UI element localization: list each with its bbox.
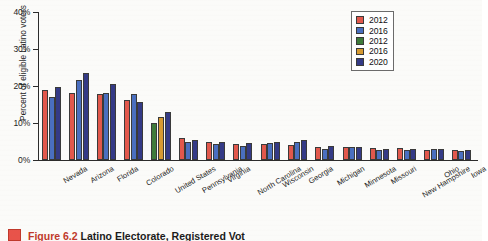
bar	[110, 84, 116, 160]
legend-label: 2020	[369, 57, 388, 67]
x-axis-label: Michigan	[335, 164, 366, 187]
y-axis-tick-label: 40%	[0, 7, 30, 17]
bar	[97, 94, 103, 160]
bar	[288, 145, 294, 160]
legend-item: 2012	[356, 36, 388, 46]
bar-group	[311, 12, 338, 160]
bar	[452, 150, 458, 160]
x-axis-label: Iowa	[470, 164, 488, 180]
bar	[424, 150, 430, 160]
bar	[179, 138, 185, 160]
bar	[192, 140, 198, 160]
bar	[151, 123, 157, 160]
bar-group	[38, 12, 65, 160]
bar	[233, 144, 239, 160]
bar-group	[257, 12, 284, 160]
caption-rest: Latino Electorate, Registered Vot	[78, 230, 245, 241]
bar	[185, 142, 191, 160]
bar	[137, 102, 143, 160]
bar	[131, 94, 137, 160]
legend-label: 2012	[369, 15, 388, 25]
bar	[410, 149, 416, 160]
bar	[246, 143, 252, 160]
bar	[322, 149, 328, 160]
legend-label: 2016	[369, 46, 388, 56]
bar	[103, 93, 109, 160]
x-axis-label: Florida	[116, 164, 141, 184]
bar	[165, 112, 171, 160]
bar	[240, 146, 246, 160]
bar	[83, 73, 89, 160]
legend-swatch	[356, 27, 364, 35]
bar	[76, 80, 82, 160]
bar	[261, 144, 267, 160]
bar	[328, 146, 334, 160]
legend-label: 2012	[369, 36, 388, 46]
bar-group	[147, 12, 174, 160]
bar	[431, 149, 437, 160]
bar	[274, 142, 280, 161]
legend-label: 2016	[369, 26, 388, 36]
y-axis-tick-label: 20%	[0, 81, 30, 91]
bar	[458, 151, 464, 160]
bar-group	[393, 12, 420, 160]
caption-marker-icon	[8, 229, 21, 241]
legend-swatch	[356, 48, 364, 56]
bar	[370, 148, 376, 160]
bar-group	[65, 12, 92, 160]
bar	[465, 150, 471, 160]
bar	[69, 93, 75, 160]
figure-caption: Figure 6.2 Latino Electorate, Registered…	[28, 230, 245, 241]
legend-swatch	[356, 37, 364, 45]
bar	[356, 147, 362, 160]
x-axis-label: Colorado	[144, 164, 175, 188]
x-axis-label: Nevada	[61, 164, 88, 185]
caption-figure-number: Figure 6.2	[28, 230, 78, 241]
bar-group	[420, 12, 447, 160]
bar-group	[229, 12, 256, 160]
bar-group	[93, 12, 120, 160]
bar	[267, 143, 273, 160]
bar	[206, 142, 212, 161]
plot-area	[38, 12, 475, 160]
bar	[404, 150, 410, 160]
x-axis-line	[38, 160, 478, 161]
bar	[315, 147, 321, 160]
bar	[55, 87, 61, 160]
bar	[49, 97, 55, 160]
bar	[438, 149, 444, 160]
x-axis-label: Arizona	[89, 164, 116, 185]
bar-group	[284, 12, 311, 160]
legend-swatch	[356, 58, 364, 66]
bar	[383, 149, 389, 160]
bar	[343, 147, 349, 160]
y-axis-tick-label: 30%	[0, 44, 30, 54]
bar	[124, 100, 130, 160]
bar-group	[120, 12, 147, 160]
legend-swatch	[356, 16, 364, 24]
chart-legend: 20122016201220162020	[351, 11, 394, 71]
bar	[158, 117, 164, 160]
bar	[397, 148, 403, 160]
bar	[42, 90, 48, 160]
bar-group	[202, 12, 229, 160]
legend-item: 2016	[356, 46, 388, 56]
y-axis-tick-label: 10%	[0, 118, 30, 128]
legend-item: 2020	[356, 57, 388, 67]
bar	[376, 150, 382, 160]
y-axis-tick-label: 0%	[0, 155, 30, 165]
legend-item: 2012	[356, 15, 388, 25]
y-axis-tick	[33, 160, 38, 161]
bar	[219, 142, 225, 160]
bar	[349, 147, 355, 160]
bar-group	[448, 12, 475, 160]
bar	[294, 142, 300, 160]
bar-group	[175, 12, 202, 160]
bar	[213, 144, 219, 160]
bar	[301, 140, 307, 160]
legend-item: 2016	[356, 25, 388, 35]
